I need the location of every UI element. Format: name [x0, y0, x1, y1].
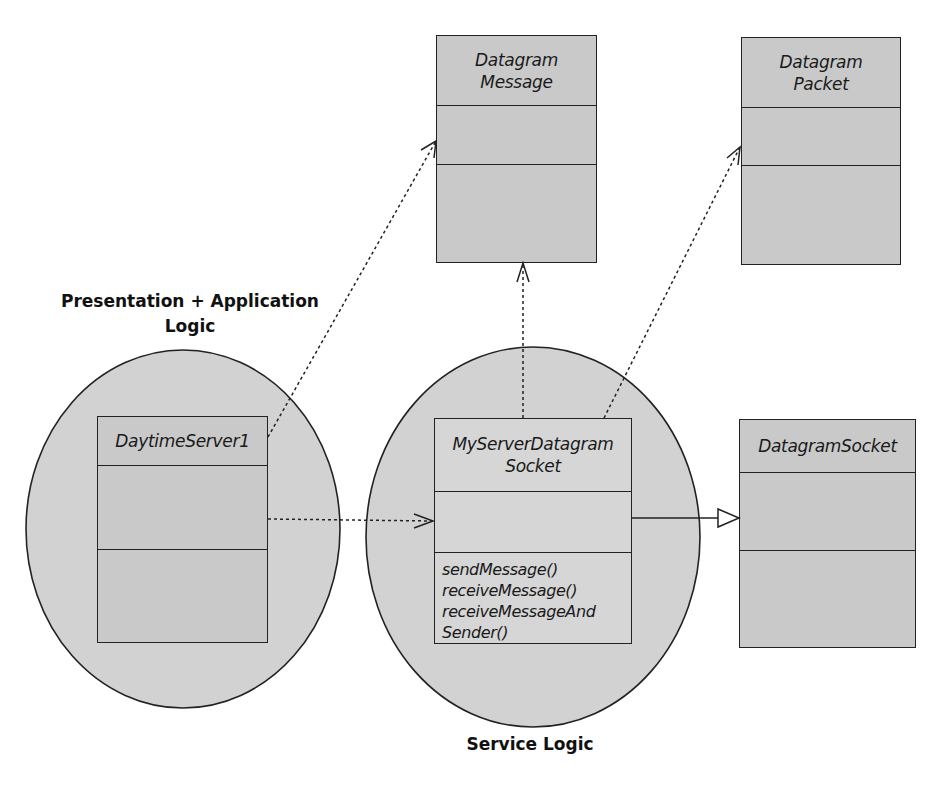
- class-operations-compartment: [437, 165, 596, 262]
- class-attributes-compartment: [435, 492, 631, 553]
- operation-receive-message: receiveMessage(): [442, 580, 631, 601]
- class-attributes-compartment: [742, 108, 900, 166]
- class-attributes-compartment: [740, 473, 915, 551]
- class-operations-compartment: [98, 550, 267, 642]
- class-datagram-socket[interactable]: DatagramSocket: [739, 419, 916, 648]
- class-name: MyServerDatagram Socket: [435, 419, 631, 492]
- presentation-region-label: Presentation + Application Logic: [30, 289, 350, 339]
- class-name: Datagram Message: [437, 36, 596, 106]
- class-name: DaytimeServer1: [98, 417, 267, 466]
- class-attributes-compartment: [98, 466, 267, 550]
- operation-receive-message-and-sender-cont: Sender(): [442, 622, 631, 643]
- service-region-label: Service Logic: [400, 732, 660, 757]
- class-operations-compartment: [740, 551, 915, 647]
- class-attributes-compartment: [437, 106, 596, 165]
- class-datagram-packet[interactable]: Datagram Packet: [741, 37, 901, 265]
- class-daytime-server1[interactable]: DaytimeServer1: [97, 416, 268, 643]
- operation-send-message: sendMessage(): [442, 559, 631, 580]
- class-operations-compartment: [742, 166, 900, 264]
- class-my-server-datagram-socket[interactable]: MyServerDatagram Socket sendMessage() re…: [434, 418, 632, 644]
- class-name: Datagram Packet: [742, 38, 900, 108]
- diagram-canvas: Presentation + Application Logic Service…: [0, 0, 939, 788]
- class-datagram-message[interactable]: Datagram Message: [436, 35, 597, 263]
- operation-receive-message-and-sender: receiveMessageAnd: [442, 601, 631, 622]
- class-operations-compartment: sendMessage() receiveMessage() receiveMe…: [435, 553, 631, 643]
- class-name: DatagramSocket: [740, 420, 915, 473]
